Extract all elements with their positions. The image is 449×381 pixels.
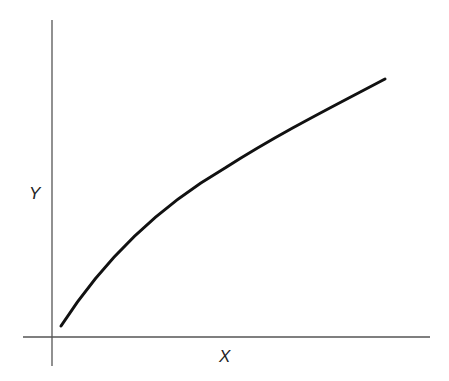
diagram-canvas: Y X bbox=[0, 0, 449, 381]
x-axis-label: X bbox=[218, 347, 231, 366]
curve bbox=[61, 79, 385, 326]
y-axis-label: Y bbox=[29, 184, 42, 203]
